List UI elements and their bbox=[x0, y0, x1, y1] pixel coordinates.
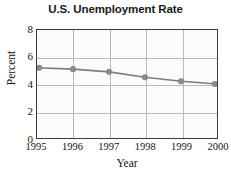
x-axis-tick-label: 1996 bbox=[52, 142, 92, 153]
plot-area bbox=[36, 29, 218, 139]
data-point-marker bbox=[212, 81, 217, 87]
data-series-layer bbox=[37, 30, 217, 138]
data-point-marker bbox=[178, 78, 184, 84]
x-axis-tick-labels: 199519961997199819992000 bbox=[36, 142, 218, 156]
y-axis-label: Percent bbox=[5, 35, 17, 101]
chart-figure: U.S. Unemployment Rate 02468 Percent 199… bbox=[0, 0, 231, 177]
series-line bbox=[37, 68, 217, 84]
data-point-marker bbox=[70, 66, 76, 72]
y-axis-tick-label: 2 bbox=[3, 106, 33, 117]
y-axis-tick-label: 8 bbox=[3, 24, 33, 35]
x-axis-tick-label: 1997 bbox=[89, 142, 129, 153]
chart-title: U.S. Unemployment Rate bbox=[0, 3, 231, 15]
x-axis-tick-label: 1998 bbox=[125, 142, 165, 153]
data-point-marker bbox=[37, 65, 42, 71]
data-point-marker bbox=[106, 69, 112, 75]
x-axis-tick-label: 1995 bbox=[16, 142, 56, 153]
x-axis-tick-label: 2000 bbox=[198, 142, 231, 153]
x-axis-label: Year bbox=[36, 157, 218, 169]
x-axis-tick-label: 1999 bbox=[162, 142, 202, 153]
data-point-marker bbox=[142, 74, 148, 80]
